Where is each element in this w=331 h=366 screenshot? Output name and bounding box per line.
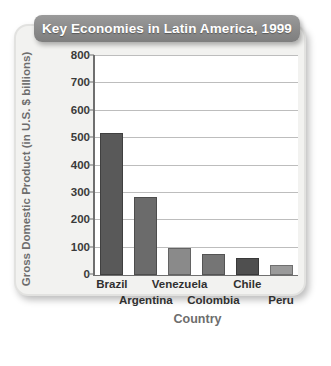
plot-area: [95, 55, 298, 275]
x-axis-title: Country: [95, 312, 300, 326]
y-tick-mark: [88, 274, 94, 275]
x-tick-label: Venezuela: [152, 278, 208, 290]
x-tick-label: Chile: [233, 278, 261, 290]
y-tick-mark: [88, 109, 94, 110]
x-axis-tick-labels: BrazilArgentinaVenezuelaColombiaChilePer…: [62, 278, 300, 314]
y-axis-title-label: Gross Domestic Product (in U.S. $ billio…: [20, 52, 32, 287]
y-tick-mark: [88, 82, 94, 83]
chart-title: Key Economies in Latin America, 1999: [42, 21, 292, 36]
bar: [236, 258, 259, 275]
y-tick-mark: [88, 55, 94, 56]
x-tick-label: Brazil: [96, 278, 127, 290]
y-tick-mark: [88, 219, 94, 220]
x-tick-label: Peru: [268, 294, 294, 306]
x-tick-label: Argentina: [119, 294, 173, 306]
y-tick-mark: [88, 164, 94, 165]
bar: [270, 265, 293, 275]
bar: [134, 197, 157, 275]
y-tick-mark: [88, 246, 94, 247]
chart-title-banner: Key Economies in Latin America, 1999: [34, 15, 300, 42]
plot-wrapper: 8007006005004003002001000: [62, 55, 300, 280]
bar: [168, 248, 191, 275]
y-axis-tick-labels: 8007006005004003002001000: [62, 55, 90, 280]
y-tick-mark: [88, 191, 94, 192]
y-tick-mark: [88, 137, 94, 138]
y-axis-title: Gross Domestic Product (in U.S. $ billio…: [16, 48, 36, 290]
bar-series: [95, 55, 298, 275]
bar: [100, 133, 123, 275]
x-tick-label: Colombia: [187, 294, 239, 306]
bar: [202, 254, 225, 275]
chart-figure: Key Economies in Latin America, 1999 Gro…: [0, 0, 331, 366]
